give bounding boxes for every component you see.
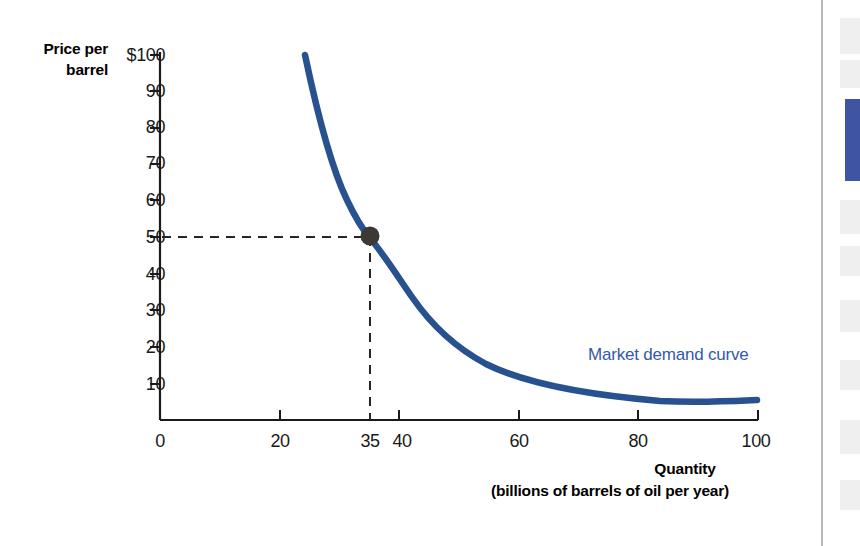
sidebar-accent-block (845, 99, 860, 181)
edge-text-smudge (840, 420, 860, 454)
equilibrium-point-marker (361, 227, 380, 246)
x-axis-title-main: Quantity (400, 458, 820, 480)
market-demand-curve-label: Market demand curve (588, 345, 749, 365)
edge-text-smudge (840, 300, 860, 332)
y-axis-ticks (150, 55, 160, 384)
edge-text-smudge (840, 60, 860, 88)
x-axis-title: Quantity (billions of barrels of oil per… (400, 458, 820, 502)
edge-text-smudge (840, 360, 860, 390)
edge-text-smudge (840, 480, 860, 510)
edge-text-smudge (840, 200, 860, 234)
x-axis-ticks (160, 410, 758, 420)
edge-text-smudge (840, 18, 860, 54)
x-axis-title-units: (billions of barrels of oil per year) (400, 480, 820, 502)
edge-text-smudge (840, 246, 860, 276)
page-gutter-rule (821, 0, 823, 546)
demand-curve-figure: Price per barrel $100 90 80 70 60 50 40 … (0, 0, 860, 546)
